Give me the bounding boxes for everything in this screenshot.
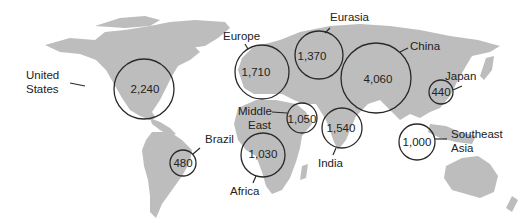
value-africa: 1,030 [249,148,278,160]
label-southeast-asia-line2: Asia [451,142,474,154]
label-japan: Japan [445,70,476,82]
land-new-zealand [506,196,518,212]
leader-india [333,148,336,155]
label-southeast-asia-line1: Southeast [451,128,504,140]
label-middle-east-line2: East [248,119,272,131]
label-eurasia: Eurasia [330,11,370,23]
bubble-southeast-asia[interactable]: 1,000 Southeast Asia [399,124,504,160]
label-united-states-line2: States [26,83,59,95]
label-united-states-line1: United [26,69,59,81]
land-masses [45,16,518,218]
leader-europe [245,44,248,49]
land-madagascar [300,164,308,180]
leader-africa [253,176,256,183]
value-united-states: 2,240 [131,83,160,95]
value-eurasia: 1,370 [298,50,327,62]
land-australia [444,156,498,198]
value-southeast-asia: 1,000 [403,136,432,148]
label-india: India [318,157,344,169]
value-india: 1,540 [327,122,356,134]
label-africa: Africa [230,185,260,197]
land-north-america [45,22,200,120]
leader-brazil [193,148,200,154]
leader-united-states [70,83,85,86]
label-europe: Europe [223,30,260,42]
label-brazil: Brazil [205,133,234,145]
value-japan: 440 [431,86,450,98]
value-brazil: 480 [173,157,192,169]
world-map: 2,240 United States 1,710 Europe 1,370 E… [0,0,523,223]
land-japan [480,56,494,80]
land-south-america [142,132,192,218]
value-europe: 1,710 [242,66,271,78]
value-middle-east: 1,050 [288,113,317,125]
value-china: 4,060 [364,73,393,85]
label-middle-east-line1: Middle [238,105,272,117]
label-china: China [410,40,441,52]
